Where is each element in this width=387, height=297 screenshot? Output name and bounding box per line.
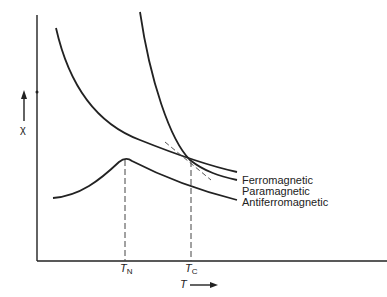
x-axis-label: T <box>180 278 188 290</box>
ferromagnetic-curve <box>140 12 237 180</box>
tc-label: TC <box>185 262 198 276</box>
y-axis-label: χ <box>20 123 26 135</box>
x-axis-arrow-icon <box>190 282 218 288</box>
ferromagnetic-extrapolation <box>165 142 211 180</box>
tn-label: TN <box>120 262 133 276</box>
susceptibility-diagram: χ Ferromagnetic Paramagnetic Antiferroma… <box>0 0 387 297</box>
antiferromagnetic-label: Antiferromagnetic <box>242 196 329 208</box>
y-axis-tick-dot <box>36 91 39 94</box>
y-axis-arrow-icon <box>21 90 27 121</box>
